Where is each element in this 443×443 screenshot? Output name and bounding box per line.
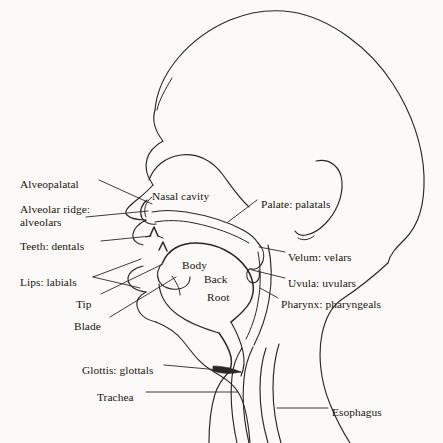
leader-lips-labials [93,259,141,277]
label-teeth-dentals: Teeth: dentals [20,240,84,253]
leader-palate-palatals [228,200,257,222]
label-alveolars: alveolars [20,216,62,229]
label-lips-labials: Lips: labials [20,276,77,289]
forehead-brow-outline [146,110,163,185]
alveolar-ridge-curve-2 [145,197,152,217]
vocal-tract-figure: Alveopalatal Alveolar ridge: alveolars T… [0,0,443,443]
anatomy-linework [0,0,443,443]
upper-lip-outline [133,220,146,245]
upper-teeth [150,227,158,236]
leader-alveopalatal [99,180,152,204]
ear-inner-line [298,236,314,240]
label-glottis-glottals: Glottis: glottals [82,364,153,377]
label-tongue-back: Back [204,273,228,286]
hard-palate-inner-line [155,221,249,243]
label-esophagus: Esophagus [332,406,382,419]
esophagus-front-wall [260,348,268,443]
leader-tip [101,264,163,294]
brow-inner-line [157,78,172,110]
leader-alveolar-ridge [86,211,148,217]
lips-outline [128,266,146,292]
nasal-cavity-floor-hard-palate [152,211,258,244]
label-nasal-cavity: Nasal cavity [152,190,209,203]
label-blade: Blade [74,320,101,333]
label-trachea: Trachea [97,391,134,404]
label-pharynx-pharyngeals: Pharynx: pharyngeals [281,298,381,311]
leader-uvula-uvulars [252,270,285,278]
label-tongue-root: Root [207,291,229,304]
label-tip: Tip [76,298,92,311]
lower-teeth [159,242,167,251]
label-palate-palatals: Palate: palatals [261,198,330,211]
pharynx-back-wall [254,245,271,345]
label-tongue-body: Body [182,259,207,272]
leader-teeth-dentals [101,236,151,241]
skull-outline [155,11,424,263]
larynx-front-wall [209,373,228,443]
label-alveolar-ridge: Alveolar ridge: [20,203,90,216]
label-alveopalatal: Alveopalatal [20,178,79,191]
velum-outline [252,243,264,269]
chin-jaw-outline [156,322,250,443]
lower-lip-outline [137,292,156,322]
esophagus-back-wall [273,344,281,443]
label-uvula-uvulars: Uvula: uvulars [288,277,356,290]
label-velum-velars: Velum: velars [288,251,352,264]
